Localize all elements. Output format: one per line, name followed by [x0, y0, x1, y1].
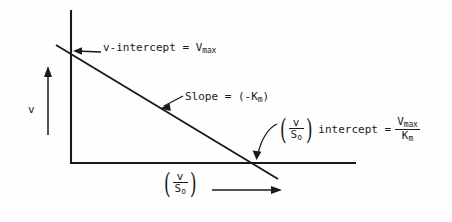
- x-intercept-result-numerator: Vmax: [395, 116, 419, 130]
- plot-drawing: [0, 0, 452, 222]
- x-intercept-arrowhead: [253, 151, 262, 160]
- left-paren-icon: (: [164, 173, 171, 195]
- v-intercept-text: v-intercept = V: [103, 41, 202, 54]
- slope-pointer: [164, 96, 183, 106]
- x-intercept-fraction: v So: [289, 117, 304, 143]
- v-intercept-arrowhead: [73, 47, 82, 55]
- slope-annotation: Slope = (-Km): [185, 91, 269, 105]
- x-intercept-text: intercept =: [318, 124, 391, 136]
- v-intercept-annotation: v-intercept = Vmax: [103, 42, 216, 56]
- right-paren-icon: ): [190, 173, 197, 195]
- figure-canvas: v-intercept = Vmax Slope = (-Km) ( v So …: [0, 0, 452, 222]
- x-intercept-denominator: So: [289, 129, 304, 142]
- x-intercept-pointer: [258, 124, 277, 154]
- x-axis-fraction: v So: [173, 171, 188, 197]
- y-axis-direction-arrowhead: [44, 66, 52, 77]
- data-line: [56, 45, 278, 179]
- x-axis-ratio: ( v So ): [162, 171, 198, 197]
- x-axis-direction-arrowhead: [271, 186, 282, 194]
- x-intercept-result-denominator: Km: [395, 130, 419, 143]
- right-paren-icon: ): [306, 119, 313, 141]
- v-intercept-subscript: max: [202, 46, 216, 55]
- left-paren-icon: (: [280, 119, 287, 141]
- y-axis-label: v: [28, 104, 35, 116]
- x-intercept-annotation: ( v So ) intercept = Vmax Km: [278, 116, 420, 144]
- slope-text: Slope = (-K: [185, 90, 258, 103]
- x-axis-label: ( v So ): [162, 171, 198, 197]
- x-axis-denominator: So: [173, 183, 188, 196]
- x-intercept-expression: ( v So ) intercept = Vmax Km: [278, 116, 420, 144]
- slope-close-paren: ): [262, 90, 269, 103]
- x-intercept-result-fraction: Vmax Km: [395, 116, 419, 144]
- x-intercept-ratio: ( v So ): [278, 117, 314, 143]
